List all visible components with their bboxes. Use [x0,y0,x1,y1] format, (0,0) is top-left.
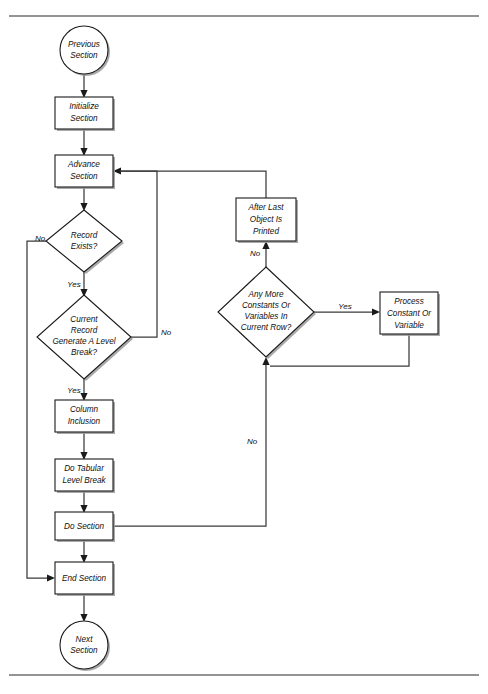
level-break-label-2: Record [71,326,98,335]
edge-process-back-to-anymore [270,334,409,366]
column-inclusion-label-2: Inclusion [68,417,101,426]
edge-record-no-to-end-section [27,241,49,578]
node-after-last-object[interactable]: After Last Object Is Printed [236,198,298,243]
edge-label-anymore-yes: Yes [338,302,351,311]
process-constant-label-3: Variable [394,321,424,330]
any-more-label-4: Current Row? [241,323,292,332]
previous-section-label-1: Previous [68,40,100,49]
record-exists-shape [46,210,122,272]
process-constant-label-2: Constant Or [387,309,431,318]
after-last-object-label-3: Printed [253,227,279,236]
next-section-label-2: Section [70,646,98,655]
any-more-label-3: Variables In [245,312,288,321]
edge-dosection-to-anymore [113,363,266,526]
flowchart-canvas: Previous Section Initialize Section Adva… [0,0,488,694]
flowchart-page: Previous Section Initialize Section Adva… [0,0,488,694]
record-exists-label-2: Exists? [71,242,98,251]
do-tabular-label-2: Level Break [62,476,106,485]
node-do-tabular-level-break[interactable]: Do Tabular Level Break [55,459,115,493]
next-section-label-1: Next [76,635,94,644]
do-section-label-1: Do Section [64,522,104,531]
any-more-label-2: Constants Or [242,301,291,310]
edge-levelbreak-no-to-advance [120,171,157,337]
edge-label-record-yes: Yes [67,280,80,289]
edge-label-record-no: No [35,234,46,243]
edge-label-dosection-no: No [247,437,258,446]
node-level-break[interactable]: Current Record Generate A Level Break? [37,295,133,381]
after-last-object-label-2: Object Is [250,215,282,224]
process-constant-label-1: Process [394,297,424,306]
node-initialize-section[interactable]: Initialize Section [55,97,115,131]
advance-section-label-2: Section [70,172,98,181]
node-do-section[interactable]: Do Section [55,512,115,542]
initialize-section-label-2: Section [70,114,98,123]
next-section-shape [60,621,108,669]
node-next-section[interactable]: Next Section [60,621,110,671]
node-any-more-constants[interactable]: Any More Constants Or Variables In Curre… [218,267,316,359]
advance-section-label-1: Advance [67,160,100,169]
do-tabular-label-1: Do Tabular [64,464,104,473]
node-process-constant[interactable]: Process Constant Or Variable [380,292,440,336]
arrowhead-end-section-left [47,574,55,581]
level-break-label-4: Break? [71,348,97,357]
edge-afterlast-to-advance [120,171,266,198]
level-break-label-3: Generate A Level [52,337,115,346]
node-column-inclusion[interactable]: Column Inclusion [55,400,115,434]
column-inclusion-label-1: Column [70,405,99,414]
previous-section-label-2: Section [70,51,98,60]
node-previous-section[interactable]: Previous Section [60,26,110,76]
after-last-object-label-1: After Last [247,203,284,212]
edge-label-levelbreak-yes: Yes [67,386,80,395]
edge-label-levelbreak-no: No [161,328,172,337]
record-exists-label-1: Record [71,231,98,240]
level-break-label-1: Current [70,315,98,324]
edge-label-anymore-no: No [250,249,261,258]
initialize-section-label-1: Initialize [69,102,99,111]
end-section-label-1: End Section [62,574,107,583]
previous-section-shape [60,26,108,74]
any-more-label-1: Any More [247,290,283,299]
node-end-section[interactable]: End Section [55,562,115,596]
node-advance-section[interactable]: Advance Section [55,155,115,189]
node-record-exists[interactable]: Record Exists? [46,210,124,274]
arrowhead-process-constant [372,308,380,315]
